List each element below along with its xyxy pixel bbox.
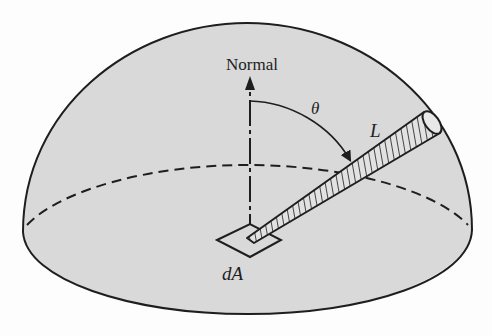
- hemisphere-radiance-figure: Normal θ L dA: [0, 0, 492, 336]
- area-label: dA: [222, 264, 243, 283]
- normal-label: Normal: [226, 56, 278, 73]
- diagram-svg: [0, 0, 492, 336]
- radiance-label: L: [370, 121, 381, 140]
- theta-label: θ: [311, 100, 319, 117]
